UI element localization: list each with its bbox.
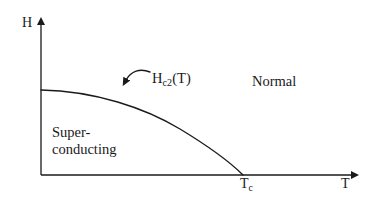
- phase-diagram-canvas: [0, 0, 379, 212]
- region-label-superconducting-line2: conducting: [52, 141, 116, 158]
- region-label-superconducting-line1: Super-: [52, 124, 116, 141]
- phase-diagram-figure: H T Tc Normal Super- conducting Hc2(T): [0, 0, 379, 212]
- tc-base: T: [240, 176, 249, 191]
- hc2-argument: (T): [172, 70, 191, 86]
- tc-subscript: c: [249, 182, 253, 193]
- curve-label-hc2: Hc2(T): [152, 70, 191, 89]
- region-label-normal: Normal: [252, 73, 296, 90]
- region-label-superconducting: Super- conducting: [52, 124, 116, 158]
- curve-label-pointer-arrow: [126, 70, 150, 80]
- hc2-base: H: [152, 70, 162, 86]
- hc2-subscript: c2: [162, 77, 172, 88]
- y-axis-label: H: [22, 15, 32, 32]
- x-axis-tick-label-tc: Tc: [240, 176, 253, 194]
- x-axis-label: T: [341, 176, 350, 193]
